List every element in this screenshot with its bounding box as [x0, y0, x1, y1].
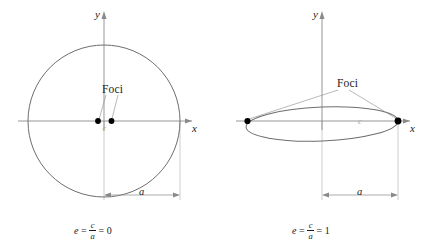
- dimension-arrow-left: [322, 193, 329, 198]
- foci-label: Foci: [337, 78, 358, 90]
- ellipse-diagram-graphics: [218, 0, 436, 248]
- center-distance-label: c: [358, 117, 362, 126]
- equation-value: 1: [325, 225, 330, 236]
- equation-lhs: e: [74, 225, 78, 236]
- equation-equals-1: =: [299, 225, 305, 236]
- x-axis-label: x: [410, 123, 415, 134]
- equation-equals-2: =: [317, 225, 323, 236]
- equation-numerator: c: [90, 221, 96, 230]
- circle-diagram-graphics: [0, 0, 218, 248]
- leader-line-focus-right: [112, 95, 118, 119]
- x-axis-arrowhead: [403, 118, 410, 123]
- y-axis-arrowhead: [320, 11, 325, 19]
- equation-fraction: c a: [307, 221, 314, 240]
- focus-dot-left: [95, 118, 101, 124]
- focus-dot-right: [109, 118, 115, 124]
- equation-denominator: a: [89, 231, 95, 240]
- panel-degenerate-ellipse: y x Foci c a e = c a = 1: [218, 0, 436, 248]
- leader-line-focus-left: [99, 95, 106, 120]
- x-axis-label: x: [192, 123, 197, 134]
- center-distance-label: c: [103, 124, 107, 133]
- x-axis-arrowhead: [185, 118, 192, 123]
- dimension-arrow-right: [173, 193, 180, 198]
- y-axis-label: y: [313, 9, 318, 20]
- leader-line-focus-left: [249, 90, 338, 119]
- leader-line-focus-right: [349, 90, 397, 119]
- eccentricity-figure: y x Foci c a e = c a = 0: [0, 0, 436, 248]
- y-axis-label: y: [95, 9, 100, 20]
- equation-denominator: a: [307, 231, 313, 240]
- y-axis-arrowhead: [102, 11, 107, 19]
- equation-equals-2: =: [99, 225, 105, 236]
- foci-label: Foci: [102, 84, 123, 96]
- panel-circle: y x Foci c a e = c a = 0: [0, 0, 218, 248]
- equation-fraction: c a: [89, 221, 96, 240]
- equation-numerator: c: [308, 221, 314, 230]
- focus-dot-left: [244, 118, 250, 124]
- equation-value: 0: [107, 225, 112, 236]
- semi-major-axis-label: a: [357, 187, 362, 198]
- focus-dot-right: [395, 118, 402, 125]
- eccentricity-equation: e = c a = 0: [74, 221, 112, 240]
- equation-equals-1: =: [81, 225, 87, 236]
- eccentricity-equation: e = c a = 1: [292, 221, 330, 240]
- semi-major-axis-label: a: [139, 187, 144, 198]
- dimension-arrow-right: [391, 193, 398, 198]
- equation-lhs: e: [292, 225, 296, 236]
